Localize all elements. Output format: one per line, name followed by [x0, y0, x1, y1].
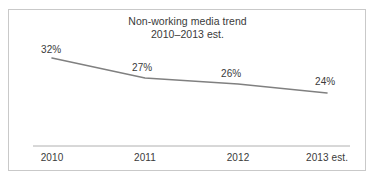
trend-line-series	[52, 58, 327, 93]
x-axis-tick-2011: 2011	[115, 152, 175, 163]
chart-figure: Non-working media trend 2010–2013 est. 3…	[0, 0, 375, 178]
x-axis-tick-2013: 2013 est.	[294, 152, 360, 163]
x-axis-tick-2012: 2012	[208, 152, 268, 163]
data-label-2012: 26%	[221, 68, 241, 79]
x-axis-tick-2010: 2010	[22, 152, 82, 163]
data-label-2010: 32%	[41, 44, 61, 55]
data-label-2011: 27%	[132, 62, 152, 73]
data-label-2013: 24%	[315, 76, 335, 87]
